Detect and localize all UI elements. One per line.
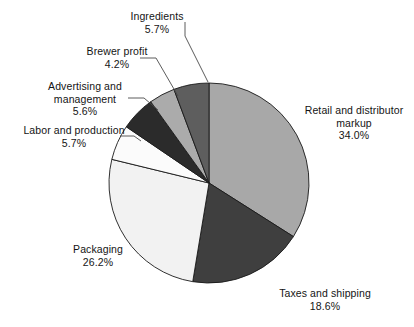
slice-label-labor-value: 5.7%	[4, 137, 144, 150]
slice-label-labor-and-production: Labor and production 5.7%	[4, 124, 144, 149]
slice-label-taxes-value: 18.6%	[252, 300, 398, 313]
slice-label-packaging: Packaging 26.2%	[46, 243, 150, 268]
slice-label-brewer-profit: Brewer profit 4.2%	[64, 45, 170, 70]
slice-label-ingredients-name: Ingredients	[104, 10, 210, 23]
slice-label-packaging-value: 26.2%	[46, 256, 150, 269]
slice-label-advertising-line1: Advertising and	[26, 80, 144, 93]
slice-label-labor-name: Labor and production	[4, 124, 144, 137]
slice-label-retail-and-distributor-markup: Retail and distributor markup 34.0%	[296, 104, 412, 142]
slice-label-packaging-name: Packaging	[46, 243, 150, 256]
slice-label-taxes-and-shipping: Taxes and shipping 18.6%	[252, 287, 398, 312]
slice-label-brewer-profit-value: 4.2%	[64, 58, 170, 71]
slice-label-brewer-profit-name: Brewer profit	[64, 45, 170, 58]
slice-label-retail-value: 34.0%	[296, 129, 412, 142]
slice-label-taxes-name: Taxes and shipping	[252, 287, 398, 300]
slice-label-retail-line1: Retail and distributor	[296, 104, 412, 117]
slice-label-advertising-value: 5.6%	[26, 105, 144, 118]
slice-label-advertising-line2: management	[26, 93, 144, 106]
slice-label-advertising-and-management: Advertising and management 5.6%	[26, 80, 144, 118]
slice-label-ingredients-value: 5.7%	[104, 23, 210, 36]
slice-label-retail-line2: markup	[296, 117, 412, 130]
slice-label-ingredients: Ingredients 5.7%	[104, 10, 210, 35]
pie-chart-figure: Ingredients 5.7% Brewer profit 4.2% Adve…	[0, 0, 414, 327]
pie-chart-canvas	[0, 0, 414, 327]
